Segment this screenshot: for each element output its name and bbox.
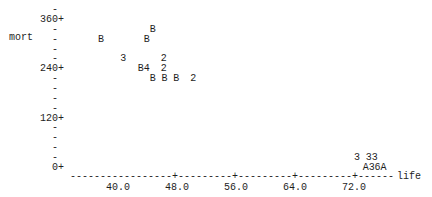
data-point: B [150,25,156,35]
data-point: B [150,74,156,84]
x-tick-label: 48.0 [165,183,189,193]
x-axis-line: -----------------+---------+---------+--… [70,172,394,182]
x-tick-label: 56.0 [224,183,248,193]
data-point: 3 [120,54,126,64]
data-point: B [144,35,150,45]
x-axis-label: life [397,172,421,182]
x-tick-label: 72.0 [342,183,366,193]
x-tick-label: 64.0 [283,183,307,193]
y-tick-label: 0+ [52,163,64,173]
data-point: B [173,74,179,84]
scatter-plot: mort life -360+----240+----120+----0+ --… [0,0,432,197]
x-tick-label: 40.0 [106,183,130,193]
data-point: B [161,74,167,84]
data-point: 3 [354,153,360,163]
y-axis-label: mort [9,33,33,43]
data-point: A [380,163,386,173]
data-point: B [98,35,104,45]
data-point: 2 [190,74,196,84]
